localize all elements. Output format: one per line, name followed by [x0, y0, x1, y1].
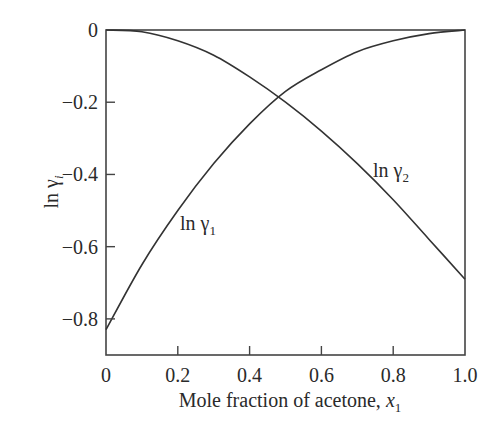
x-tick-label: 0.6: [309, 364, 334, 386]
y-axis-label-sub: i: [51, 175, 66, 179]
y-tick-label: −0.6: [62, 236, 98, 258]
curve-label-ln-gamma-1: ln γ1: [180, 212, 216, 238]
y-tick-label: 0: [88, 19, 98, 41]
curve-label-2-sub: 2: [402, 170, 409, 185]
plot-area: [106, 30, 465, 355]
y-tick-label: −0.8: [62, 308, 98, 330]
curve-label-1-sub: 1: [209, 223, 216, 238]
x-tick-label: 1.0: [453, 364, 478, 386]
plot-frame: [106, 30, 465, 355]
x-tick-label: 0: [101, 364, 111, 386]
activity-coefficient-chart: 00.20.40.60.81.0 0−0.2−0.4−0.6−0.8 Mole …: [0, 0, 500, 437]
x-tick-label: 0.2: [165, 364, 190, 386]
curve-label-1-main: ln γ: [180, 212, 210, 235]
curve-label-ln-gamma-2: ln γ2: [373, 159, 409, 185]
series-ln-gamma-2: [106, 30, 465, 279]
curve-label-2-main: ln γ: [373, 159, 403, 182]
x-axis-label-main: Mole fraction of acetone,: [179, 389, 386, 411]
series-ln-gamma-1: [106, 30, 465, 330]
curve-ln-gamma-1: [106, 30, 465, 330]
x-axis-label-var: x: [385, 389, 395, 411]
y-axis-label-main: ln γ: [40, 179, 63, 209]
x-axis-ticks: 00.20.40.60.81.0: [101, 346, 478, 386]
x-axis-label-sub: 1: [395, 400, 402, 415]
y-tick-label: −0.4: [62, 163, 98, 185]
x-tick-label: 0.8: [381, 364, 406, 386]
y-tick-label: −0.2: [62, 91, 98, 113]
x-tick-label: 0.4: [237, 364, 262, 386]
curve-ln-gamma-2: [106, 30, 465, 279]
y-axis-ticks: 0−0.2−0.4−0.6−0.8: [62, 19, 115, 330]
x-axis-label: Mole fraction of acetone, x1: [179, 389, 402, 415]
